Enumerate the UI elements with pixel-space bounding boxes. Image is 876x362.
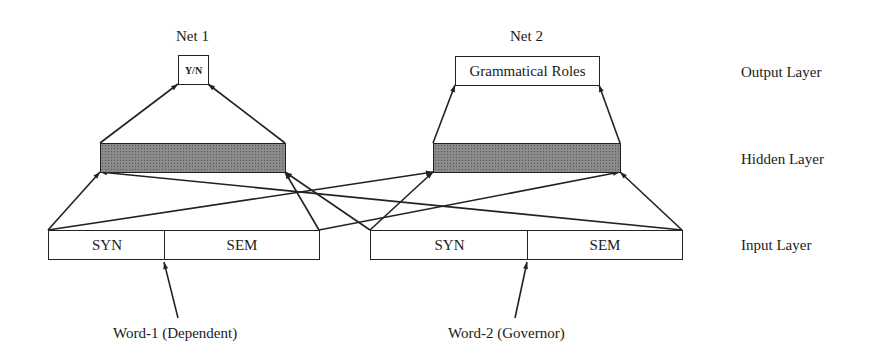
- hidden-layer-net1: [100, 143, 286, 173]
- edge-in2left-to-h1right: [285, 172, 370, 230]
- hidden-layer-label: Hidden Layer: [741, 151, 824, 168]
- edge-hidden2-to-roles-left: [433, 85, 455, 143]
- edge-hidden1-to-yn-right: [208, 84, 285, 143]
- input-layer-label: Input Layer: [741, 237, 811, 254]
- edge-in1right-to-h1right: [285, 172, 319, 230]
- input-word1-syn: SYN: [49, 231, 165, 259]
- word2-label: Word-2 (Governor): [448, 325, 565, 342]
- edge-word1-to-input1: [164, 262, 178, 318]
- edge-hidden1-to-yn-left: [100, 84, 178, 143]
- input-word2-sem: SEM: [527, 231, 682, 259]
- edge-in2right-to-h2right: [620, 172, 682, 230]
- output-node-roles-label: Grammatical Roles: [469, 63, 585, 80]
- input-word1: SYN SEM: [48, 230, 320, 260]
- edge-word2-to-input2: [515, 262, 527, 318]
- output-node-yn: Y/N: [178, 55, 209, 85]
- input-word1-sem: SEM: [164, 231, 319, 259]
- output-node-grammatical-roles: Grammatical Roles: [455, 56, 600, 86]
- network-connections: [0, 0, 876, 362]
- word1-label: Word-1 (Dependent): [113, 325, 237, 342]
- input-word2: SYN SEM: [370, 230, 683, 260]
- input-word2-syn: SYN: [371, 231, 528, 259]
- edge-in2right-to-h1left: [100, 172, 682, 230]
- output-layer-label: Output Layer: [741, 64, 821, 81]
- edge-in1left-to-h1left: [48, 172, 100, 230]
- edge-in1right-to-h2right: [319, 172, 620, 230]
- net2-title: Net 2: [510, 28, 543, 45]
- net1-title: Net 1: [176, 28, 209, 45]
- hidden-layer-net2: [433, 143, 621, 173]
- edge-in1left-to-h2left: [48, 172, 433, 230]
- edge-hidden2-to-roles-right: [599, 85, 620, 143]
- output-node-yn-label: Y/N: [185, 65, 202, 76]
